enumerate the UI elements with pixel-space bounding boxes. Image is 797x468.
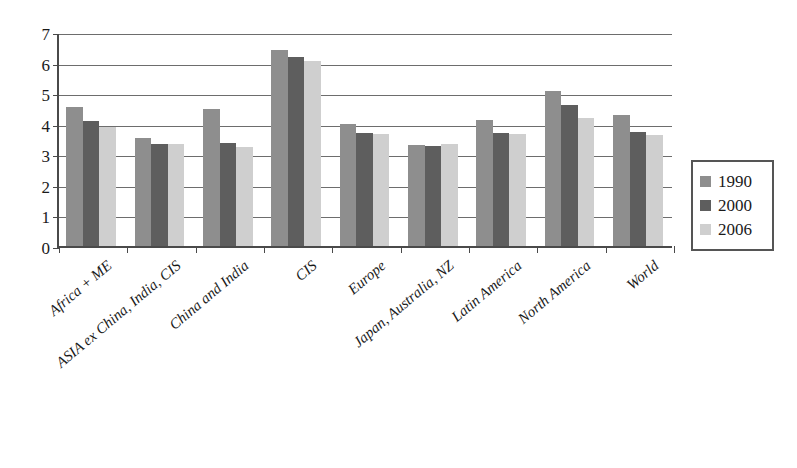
legend-label: 2000 (718, 197, 752, 214)
legend-item: 1990 (700, 169, 764, 193)
x-axis-label-text: North America (515, 258, 594, 327)
bar (476, 120, 493, 246)
plot-area: 01234567 (57, 34, 672, 248)
legend-swatch-icon (700, 176, 711, 187)
bar (304, 61, 321, 246)
y-axis-tick-label: 2 (42, 178, 51, 195)
bar (203, 109, 220, 246)
bar-group (264, 34, 332, 246)
bar (220, 143, 237, 246)
bar (545, 91, 562, 246)
y-axis-tick-label: 3 (42, 148, 51, 165)
bar-group (469, 34, 537, 246)
x-axis-tick (127, 246, 128, 253)
x-axis-tick (332, 246, 333, 253)
x-axis-tick (401, 246, 402, 253)
bar (630, 132, 647, 246)
x-axis-tick (196, 246, 197, 253)
bar (151, 144, 168, 246)
bar (509, 134, 526, 247)
y-axis-tick-label: 4 (42, 117, 51, 134)
bar-group (59, 34, 127, 246)
bar-group (537, 34, 605, 246)
bar-group (196, 34, 264, 246)
bar (425, 146, 442, 246)
bar-group (606, 34, 674, 246)
x-axis-label-text: CIS (293, 258, 320, 285)
bar (356, 133, 373, 246)
x-axis-tick (606, 246, 607, 253)
x-axis-label-text: ASIA ex China, India, CIS (53, 258, 184, 371)
legend-item: 2006 (700, 217, 764, 241)
legend: 199020002006 (691, 160, 774, 251)
x-axis-tick (674, 246, 675, 253)
y-axis-tick-label: 0 (42, 240, 51, 257)
bar (578, 118, 595, 246)
bar (493, 133, 510, 246)
bar (168, 144, 185, 246)
x-axis-tick (264, 246, 265, 253)
y-axis-tick-label: 5 (42, 87, 51, 104)
x-axis-label-text: Europe (345, 258, 389, 298)
bar (236, 147, 253, 246)
bar-group (332, 34, 400, 246)
bar (646, 135, 663, 246)
legend-item: 2000 (700, 193, 764, 217)
legend-label: 2006 (718, 221, 752, 238)
x-axis-tick (469, 246, 470, 253)
bar-group (401, 34, 469, 246)
x-axis-label-text: Africa + ME (46, 258, 115, 319)
bar (561, 105, 578, 246)
x-axis-tick (59, 246, 60, 253)
x-axis-labels: Africa + MEASIA ex China, India, CISChin… (57, 258, 672, 458)
x-axis-tick (537, 246, 538, 253)
x-axis-label-text: World (624, 258, 662, 293)
bar (135, 138, 152, 246)
legend-swatch-icon (700, 224, 711, 235)
x-axis-label-text: Latin America (449, 258, 525, 325)
bar-group (127, 34, 195, 246)
bar (408, 145, 425, 246)
legend-label: 1990 (718, 173, 752, 190)
y-axis-tick-label: 7 (42, 26, 51, 43)
bar (99, 127, 116, 246)
bar (373, 134, 390, 247)
bar (83, 121, 100, 246)
bar (271, 50, 288, 246)
y-axis-tick-label: 6 (42, 56, 51, 73)
bar (66, 107, 83, 246)
bar-chart: 01234567 Africa + MEASIA ex China, India… (0, 0, 797, 468)
bar (613, 115, 630, 246)
y-axis-tick-label: 1 (42, 209, 51, 226)
bar (340, 124, 357, 246)
bar (288, 57, 305, 246)
bar (441, 144, 458, 246)
legend-swatch-icon (700, 200, 711, 211)
